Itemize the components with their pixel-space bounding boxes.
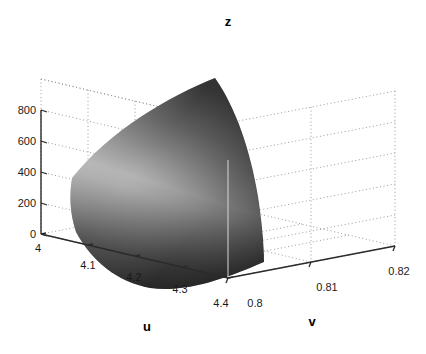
z-tick-labels: 0 200 400 600 800 (18, 104, 36, 240)
u-tick-label-1: 4.1 (80, 259, 95, 271)
v-tick-label-0: 0.8 (247, 297, 262, 309)
u-axis-title: u (143, 319, 151, 334)
figure-canvas: 0 200 400 600 800 4 4.1 4.2 4.3 4.4 0.8 … (0, 0, 426, 354)
z-tick-label-4: 800 (18, 104, 36, 116)
z-tick-label-0: 0 (30, 228, 36, 240)
v-axis-title: v (308, 314, 316, 329)
u-tick-label-0: 4 (35, 242, 41, 254)
z-axis-ticks (41, 110, 47, 236)
z-tick-label-3: 600 (18, 135, 36, 147)
u-tick-label-4: 4.4 (213, 297, 228, 309)
surface-mesh (70, 78, 264, 289)
v-tick-label-1: 0.81 (316, 281, 337, 293)
z-tick-label-2: 400 (18, 166, 36, 178)
z-tick-label-1: 200 (18, 197, 36, 209)
u-tick-label-2: 4.2 (126, 271, 141, 283)
v-tick-label-2: 0.82 (388, 265, 409, 277)
u-tick-label-3: 4.3 (172, 283, 187, 295)
surface-plot: 0 200 400 600 800 4 4.1 4.2 4.3 4.4 0.8 … (0, 0, 426, 354)
z-axis-title: z (225, 14, 232, 29)
v-tick-labels: 0.8 0.81 0.82 (247, 265, 409, 309)
